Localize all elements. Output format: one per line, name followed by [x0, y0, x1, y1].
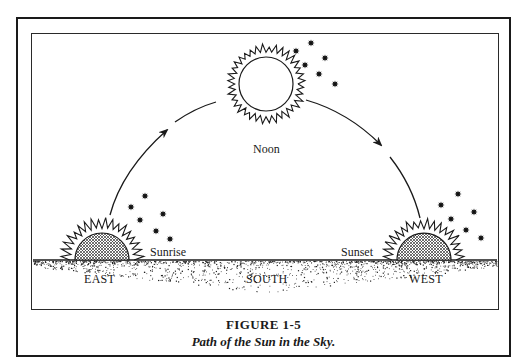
south-label: SOUTH	[246, 273, 288, 285]
star-cluster-noon-icon	[292, 39, 338, 87]
star-cluster-east-icon	[127, 192, 173, 242]
sunset-label: Sunset	[341, 246, 373, 258]
star-icon	[315, 70, 322, 77]
setting-arc-segment-arrow	[306, 100, 381, 145]
noon-sun-icon	[228, 44, 305, 124]
figure-title: Path of the Sun in the Sky.	[16, 334, 511, 350]
sunrise-sun-icon	[61, 218, 144, 260]
star-icon	[462, 226, 469, 233]
star-icon	[454, 190, 461, 197]
star-icon	[437, 201, 444, 208]
noon-label: Noon	[253, 143, 280, 155]
figure-number: FIGURE 1-5	[16, 317, 511, 333]
star-icon	[159, 210, 166, 217]
star-icon	[136, 216, 143, 223]
west-label: WEST	[409, 273, 443, 285]
star-cluster-west-icon	[437, 190, 484, 241]
figure-canvas: Noon Sunrise Sunset EAST SOUTH WEST FIGU…	[0, 0, 520, 363]
star-icon	[477, 234, 484, 241]
star-icon	[152, 227, 159, 234]
star-icon	[127, 203, 134, 210]
star-icon	[307, 39, 314, 46]
rising-arc-segment	[175, 102, 216, 122]
star-icon	[292, 47, 299, 54]
star-icon	[321, 54, 328, 61]
star-icon	[301, 61, 308, 68]
star-icon	[166, 235, 173, 242]
sunset-sun-icon	[384, 219, 464, 260]
sun-path-diagram	[0, 0, 520, 363]
star-icon	[331, 80, 338, 87]
setting-arc-segment	[390, 157, 420, 218]
star-icon	[141, 192, 148, 199]
sunrise-label: Sunrise	[150, 246, 186, 258]
star-icon	[470, 208, 477, 215]
east-label: EAST	[84, 273, 115, 285]
star-icon	[447, 215, 454, 222]
rising-arc-arrow	[110, 130, 167, 215]
